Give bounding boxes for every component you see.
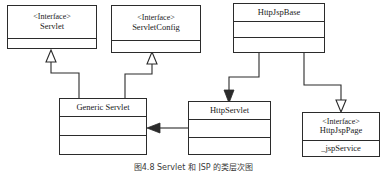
uml-class-http-servlet-operations <box>189 137 270 154</box>
uml-class-servlet[interactable]: <Interface> Servlet <box>7 5 97 49</box>
uml-class-http-jsp-base[interactable]: HttpJspBase <box>233 3 325 53</box>
uml-class-servlet-header: <Interface> Servlet <box>8 6 96 38</box>
uml-class-http-servlet[interactable]: HttpServlet <box>188 101 271 155</box>
uml-class-servlet-config[interactable]: <Interface> ServletConfig <box>111 5 201 53</box>
uml-operation-jsp-service: _jspService <box>321 144 361 153</box>
uml-class-http-servlet-name: HttpServlet <box>210 106 249 115</box>
uml-class-diagram: <Interface> Servlet <Interface> ServletC… <box>0 0 387 171</box>
uml-class-generic-servlet-attributes <box>60 116 146 135</box>
uml-class-generic-servlet-name: Generic Servlet <box>76 103 129 112</box>
uml-class-http-jsp-base-name: HttpJspBase <box>258 8 301 17</box>
uml-class-http-jsp-base-header: HttpJspBase <box>234 4 324 21</box>
uml-class-http-jsp-base-operations <box>234 37 324 52</box>
uml-class-servlet-config-name: ServletConfig <box>132 23 180 32</box>
uml-class-http-jsp-page-name: HttpJspPage <box>320 126 363 135</box>
uml-class-servlet-name: Servlet <box>40 22 64 31</box>
uml-class-generic-servlet[interactable]: Generic Servlet <box>59 98 147 155</box>
uml-class-http-jsp-base-attributes <box>234 21 324 37</box>
connector-generic-servlet-to-servlet <box>46 50 79 98</box>
uml-class-http-servlet-header: HttpServlet <box>189 102 270 119</box>
figure-caption: 图4.8 Servlet 和 JSP 的类层次图 <box>0 163 387 171</box>
uml-class-generic-servlet-operations <box>60 135 146 154</box>
connector-http-jsp-base-to-http-servlet <box>224 53 259 103</box>
uml-class-generic-servlet-header: Generic Servlet <box>60 99 146 116</box>
connector-http-servlet-to-generic-servlet <box>147 123 188 133</box>
uml-class-servlet-config-header: <Interface> ServletConfig <box>112 6 200 40</box>
uml-class-http-servlet-attributes <box>189 119 270 137</box>
uml-class-http-jsp-page-header: <Interface> HttpJspPage <box>303 113 379 140</box>
uml-class-http-jsp-page[interactable]: <Interface> HttpJspPage _jspService <box>302 112 380 157</box>
uml-class-servlet-config-members <box>112 40 200 52</box>
connector-http-jsp-base-to-http-jsp-page <box>304 53 346 112</box>
uml-class-servlet-members <box>8 38 96 48</box>
connector-generic-servlet-to-servlet-config <box>125 52 157 98</box>
uml-class-http-jsp-page-operations: _jspService <box>303 140 379 156</box>
